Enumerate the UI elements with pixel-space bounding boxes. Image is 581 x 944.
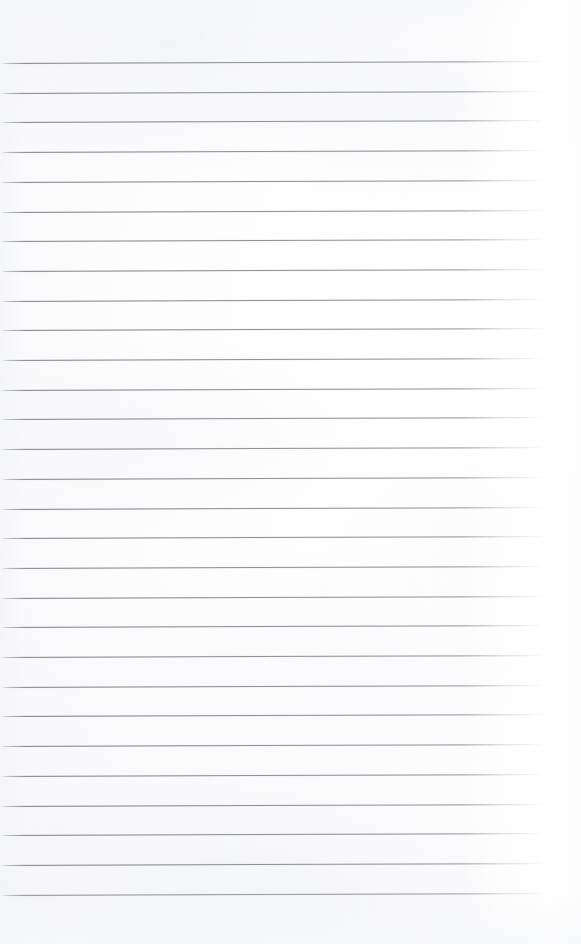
page-edge-shading-bottom [0, 888, 581, 944]
page-edge-shading-right [461, 0, 581, 944]
scanned-page [0, 0, 581, 944]
page-edge-shading-left [0, 0, 26, 944]
